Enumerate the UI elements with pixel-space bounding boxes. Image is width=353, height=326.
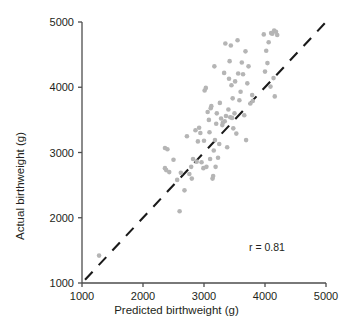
scatter-point: [185, 134, 190, 139]
scatter-point: [232, 111, 237, 116]
scatter-point: [190, 176, 195, 181]
scatter-point: [225, 145, 230, 150]
scatter-point: [224, 114, 229, 119]
y-tick-label: 2000: [0, 212, 74, 224]
identity-reference-line: [85, 22, 326, 280]
scatter-point: [208, 157, 213, 162]
scatter-point: [222, 119, 227, 124]
x-tick-label: 3000: [192, 290, 216, 302]
scatter-point: [218, 101, 223, 106]
scatter-point: [250, 93, 255, 98]
scatter-point: [237, 98, 242, 103]
scatter-point: [271, 76, 276, 81]
scatter-point: [211, 174, 216, 179]
scatter-point: [209, 104, 214, 109]
scatter-point: [261, 32, 266, 37]
scatter-point: [213, 165, 218, 170]
scatter-point: [231, 126, 236, 131]
scatter-point: [196, 139, 201, 144]
scatter-chart-figure: 10002000300040005000 1000200030004000500…: [0, 0, 353, 326]
x-tick-label: 5000: [314, 290, 338, 302]
scatter-point: [207, 118, 212, 123]
scatter-point: [175, 178, 180, 183]
scatter-point: [227, 76, 232, 81]
scatter-point: [265, 61, 270, 66]
scatter-point: [245, 81, 250, 86]
scatter-point: [213, 138, 218, 143]
scatter-point: [204, 86, 209, 91]
scatter-point: [238, 90, 243, 95]
scatter-point: [205, 110, 210, 115]
scatter-point: [179, 170, 184, 175]
scatter-point: [251, 99, 256, 104]
scatter-point: [189, 165, 194, 170]
x-tick-label: 2000: [131, 290, 155, 302]
scatter-point: [266, 40, 271, 45]
x-tick-label: 4000: [253, 290, 277, 302]
scatter-point: [236, 71, 241, 76]
scatter-point: [212, 64, 217, 69]
scatter-point: [202, 138, 207, 143]
scatter-point: [182, 188, 187, 193]
scatter-point: [197, 125, 202, 130]
scatter-point: [229, 43, 234, 48]
scatter-point: [234, 131, 239, 136]
correlation-annotation: r = 0.81: [249, 241, 285, 253]
scatter-point: [171, 157, 176, 162]
scatter-point: [223, 41, 228, 46]
scatter-point: [243, 49, 248, 54]
scatter-point: [227, 59, 232, 64]
scatter-point: [246, 64, 251, 69]
identity-line: [85, 22, 326, 280]
scatter-point: [214, 121, 219, 126]
scatter-point: [216, 155, 221, 160]
scatter-point: [217, 142, 222, 147]
y-tick-label: 3000: [0, 147, 74, 159]
x-axis-title: Predicted birthweight (g): [0, 304, 353, 316]
scatter-point: [233, 79, 238, 84]
scatter-point: [226, 107, 231, 112]
y-tick-label: 5000: [0, 16, 74, 28]
scatter-point: [268, 84, 273, 89]
scatter-point: [264, 48, 269, 53]
scatter-point: [241, 72, 246, 77]
x-tick-label: 1000: [70, 290, 94, 302]
scatter-point: [229, 83, 234, 88]
scatter-point: [275, 33, 280, 38]
scatter-point: [211, 148, 216, 153]
scatter-points: [97, 28, 280, 258]
scatter-point: [272, 94, 277, 99]
scatter-point: [177, 209, 182, 214]
scatter-point: [198, 131, 203, 136]
scatter-point: [199, 160, 204, 165]
scatter-point: [222, 71, 227, 76]
scatter-point: [207, 130, 212, 135]
scatter-point: [187, 172, 192, 177]
y-axis-title: Actual birthweight (g): [14, 132, 26, 240]
y-tick-label: 4000: [0, 81, 74, 93]
scatter-point: [235, 38, 240, 43]
scatter-point: [263, 69, 268, 74]
scatter-point: [204, 165, 209, 170]
scatter-point: [215, 111, 220, 116]
scatter-point: [230, 116, 235, 121]
scatter-point: [194, 159, 199, 164]
scatter-point: [230, 96, 235, 101]
scatter-point: [240, 60, 245, 65]
y-tick-label: 1000: [0, 277, 74, 289]
scatter-point: [242, 113, 247, 118]
scatter-point: [97, 253, 102, 258]
scatter-point: [167, 170, 172, 175]
scatter-point: [244, 138, 249, 143]
scatter-point: [165, 147, 170, 152]
